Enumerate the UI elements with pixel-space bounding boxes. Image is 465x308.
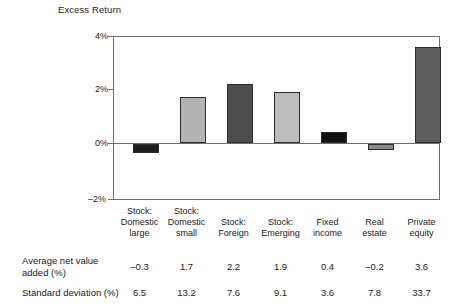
table-cell: 13.2 <box>160 287 213 298</box>
table-cell: 9.1 <box>254 287 307 298</box>
x-category-real-estate: Real estate <box>348 217 401 239</box>
table-cell: –0.2 <box>348 261 401 272</box>
y-tick-label-0: 4% <box>76 31 108 41</box>
x-category-line: small <box>160 228 213 239</box>
x-category-stock-foreign: Stock: Foreign <box>207 217 260 239</box>
table-cell: –0.3 <box>113 261 166 272</box>
x-category-line: equity <box>395 228 448 239</box>
row-label-average-net-value-added: Average net value added (%) <box>22 255 98 278</box>
bar-stock-domestic-small <box>180 97 206 143</box>
bar-private-equity <box>415 47 441 143</box>
x-category-line: Domestic <box>113 217 166 228</box>
x-category-line: Domestic <box>160 217 213 228</box>
row-label-line: Standard deviation (%) <box>22 287 119 299</box>
x-category-line: Stock: <box>160 206 213 217</box>
x-category-stock-emerging: Stock: Emerging <box>254 217 307 239</box>
bar-fixed-income <box>321 132 347 143</box>
chart-figure: Excess Return 4% 2% 0% –2% Stock: Domest… <box>0 0 465 308</box>
row-label-line: Average net value <box>22 255 98 267</box>
x-category-line: Stock: <box>254 217 307 228</box>
table-cell: 33.7 <box>395 287 448 298</box>
row-label-line: added (%) <box>22 267 98 279</box>
table-cell: 3.6 <box>301 287 354 298</box>
bar-stock-emerging <box>274 92 300 143</box>
bar-real-estate <box>368 144 394 150</box>
y-tick-label-1: 2% <box>76 84 108 94</box>
x-category-stock-domestic-small: Stock: Domestic small <box>160 206 213 240</box>
table-cell: 6.5 <box>113 287 166 298</box>
table-cell: 0.4 <box>301 261 354 272</box>
chart-title: Excess Return <box>58 4 121 15</box>
x-category-line: Fixed <box>301 217 354 228</box>
x-category-line: Emerging <box>254 228 307 239</box>
x-category-line: estate <box>348 228 401 239</box>
x-category-fixed-income: Fixed income <box>301 217 354 239</box>
table-cell: 7.8 <box>348 287 401 298</box>
row-label-standard-deviation: Standard deviation (%) <box>22 287 119 299</box>
x-category-line: large <box>113 228 166 239</box>
x-category-line: income <box>301 228 354 239</box>
x-category-private-equity: Private equity <box>395 217 448 239</box>
x-category-line: Stock: <box>113 206 166 217</box>
x-category-line: Real <box>348 217 401 228</box>
table-cell: 7.6 <box>207 287 260 298</box>
bar-stock-domestic-large <box>133 144 159 153</box>
y-tick-label-3: –2% <box>74 194 106 204</box>
bar-stock-foreign <box>227 84 253 143</box>
table-cell: 1.7 <box>160 261 213 272</box>
table-cell: 2.2 <box>207 261 260 272</box>
x-category-line: Foreign <box>207 228 260 239</box>
table-cell: 3.6 <box>395 261 448 272</box>
x-category-line: Stock: <box>207 217 260 228</box>
x-category-stock-domestic-large: Stock: Domestic large <box>113 206 166 240</box>
table-cell: 1.9 <box>254 261 307 272</box>
y-tick-label-2: 0% <box>76 138 108 148</box>
x-category-line: Private <box>395 217 448 228</box>
plot-area <box>113 36 440 200</box>
